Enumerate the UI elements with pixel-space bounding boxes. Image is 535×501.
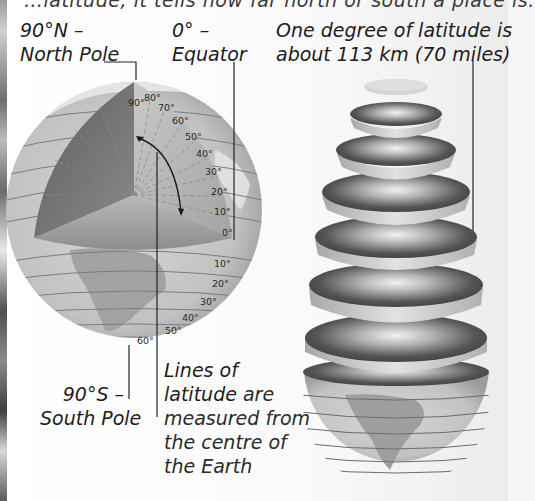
caption-line5: the Earth: [164, 454, 310, 478]
svg-text:10°: 10°: [214, 258, 231, 269]
south-pole-degree: 90°S –: [40, 382, 124, 406]
caption-line3: measured from: [164, 406, 310, 430]
svg-text:40°: 40°: [196, 148, 213, 159]
svg-text:50°: 50°: [165, 325, 182, 336]
equator-label: 0° – Equator: [172, 18, 247, 66]
svg-text:0°: 0°: [222, 227, 233, 238]
equator-name: Equator: [172, 42, 247, 66]
svg-text:30°: 30°: [200, 296, 217, 307]
svg-text:20°: 20°: [211, 186, 228, 197]
degree-distance-line2: about 113 km (70 miles): [276, 42, 512, 66]
caption-term-latitude: latitude: [164, 383, 237, 405]
svg-text:50°: 50°: [185, 131, 202, 142]
caption-line2-rest: are: [237, 383, 274, 405]
lines-of-latitude-caption: Lines of latitude are measured from the …: [164, 358, 310, 478]
svg-text:20°: 20°: [212, 278, 229, 289]
svg-text:40°: 40°: [182, 312, 199, 323]
sliced-globe-stack: [300, 79, 492, 473]
cutaway-globe: 90° 80° 70° 60° 50° 40° 30° 20° 10° 0° 1…: [6, 77, 262, 346]
equator-degree: 0° –: [172, 18, 247, 42]
north-pole-name: North Pole: [20, 42, 119, 66]
north-pole-label: 90°N – North Pole: [20, 18, 119, 66]
north-pole-degree: 90°N –: [20, 18, 119, 42]
caption-line1: Lines of: [164, 358, 310, 382]
south-pole-name: South Pole: [40, 406, 124, 430]
svg-text:10°: 10°: [214, 206, 231, 217]
svg-text:60°: 60°: [172, 115, 189, 126]
svg-text:60°: 60°: [137, 335, 154, 346]
degree-distance-line1: One degree of latitude is: [276, 18, 512, 42]
svg-text:70°: 70°: [158, 102, 175, 113]
south-pole-label: 90°S – South Pole: [40, 382, 124, 430]
svg-text:90°: 90°: [128, 97, 145, 108]
degree-distance-label: One degree of latitude is about 113 km (…: [276, 18, 512, 66]
svg-text:30°: 30°: [205, 166, 222, 177]
caption-line4: the centre of: [164, 430, 310, 454]
